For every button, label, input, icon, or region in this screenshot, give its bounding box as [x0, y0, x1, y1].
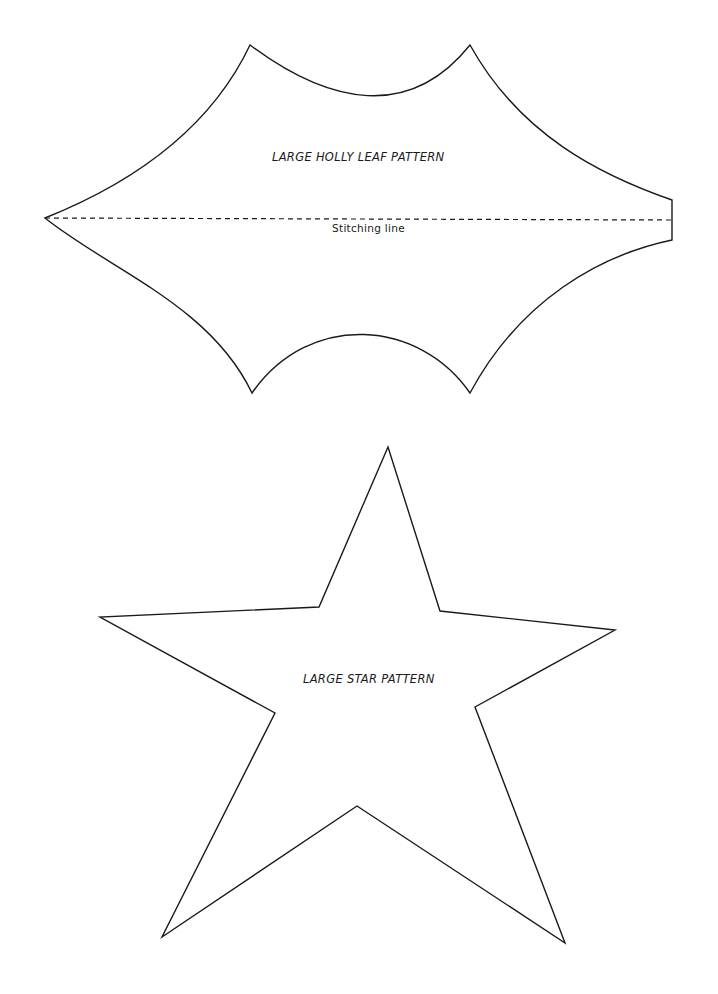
stitching-line	[45, 218, 672, 220]
holly-leaf-outline	[45, 45, 672, 393]
pattern-sheet: LARGE HOLLY LEAF PATTERN Stitching line …	[0, 0, 718, 994]
star-title: LARGE STAR PATTERN	[303, 672, 435, 686]
stitching-line-label: Stitching line	[332, 222, 405, 234]
holly-leaf-title: LARGE HOLLY LEAF PATTERN	[272, 150, 445, 164]
star-outline	[100, 447, 615, 943]
